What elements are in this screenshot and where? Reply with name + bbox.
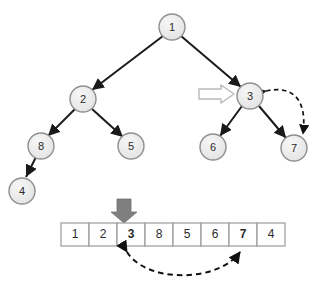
- edge-8-to-4: [26, 157, 36, 177]
- tree-node-3[interactable]: 3: [237, 83, 263, 109]
- cell-value: 4: [268, 227, 275, 241]
- tree-node-1[interactable]: 1: [159, 14, 185, 40]
- array-cells: 1 2 3 8 5 6 7: [61, 223, 285, 246]
- dashed-swap-arc-tree: [266, 90, 304, 134]
- array-cell-5[interactable]: 6: [201, 223, 229, 246]
- array-cell-2[interactable]: 3: [117, 223, 145, 246]
- node-label: 5: [128, 140, 134, 152]
- cell-value: 2: [100, 227, 107, 241]
- edge-3-to-7: [259, 106, 286, 138]
- node-label: 1: [169, 21, 175, 33]
- tree-node-8[interactable]: 8: [28, 133, 54, 159]
- edge-3-to-6: [220, 106, 242, 136]
- cell-value: 7: [240, 227, 247, 241]
- cell-value: 1: [72, 227, 79, 241]
- cell-value: 5: [184, 227, 191, 241]
- gray-down-arrow-icon: [111, 199, 137, 223]
- cell-value: 3: [128, 227, 135, 241]
- node-label: 8: [38, 140, 44, 152]
- array-cell-7[interactable]: 4: [257, 223, 285, 246]
- tree-node-7[interactable]: 7: [281, 135, 307, 161]
- node-label: 6: [210, 141, 216, 153]
- edge-2-to-8: [48, 109, 75, 136]
- tree-node-2[interactable]: 2: [70, 86, 96, 112]
- array-cell-3[interactable]: 8: [145, 223, 173, 246]
- node-label: 7: [291, 142, 297, 154]
- cell-value: 6: [212, 227, 219, 241]
- dashed-swap-arc-array: [127, 252, 240, 275]
- array-cell-0[interactable]: 1: [61, 223, 89, 246]
- array-cell-6[interactable]: 7: [229, 223, 257, 246]
- tree-node-4[interactable]: 4: [9, 178, 35, 204]
- figure-canvas: 1 2 3 8 5 6 7: [0, 0, 322, 292]
- diagram-svg: 1 2 3 8 5 6 7: [0, 0, 322, 292]
- node-label: 4: [19, 185, 25, 197]
- edge-1-to-3: [181, 36, 241, 87]
- node-label: 3: [247, 90, 253, 102]
- cell-value: 8: [156, 227, 163, 241]
- edge-2-to-5: [92, 109, 123, 137]
- array-cell-1[interactable]: 2: [89, 223, 117, 246]
- node-label: 2: [80, 93, 86, 105]
- tree-node-5[interactable]: 5: [118, 133, 144, 159]
- edge-1-to-2: [92, 36, 163, 90]
- hollow-arrow-icon: [199, 85, 234, 103]
- tree-node-6[interactable]: 6: [200, 134, 226, 160]
- array-cell-4[interactable]: 5: [173, 223, 201, 246]
